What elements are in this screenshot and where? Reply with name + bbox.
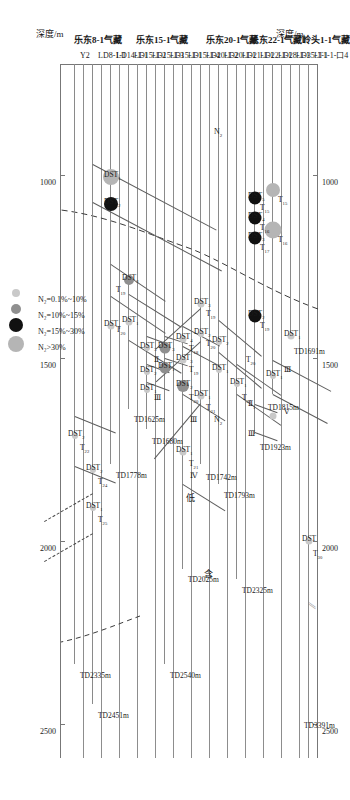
legend-swatch-0 — [12, 289, 20, 297]
legend-swatch-3 — [8, 336, 24, 352]
legend-swatch-2 — [9, 318, 23, 332]
legend-swatch-1 — [11, 304, 21, 314]
legend-label-3: N₂>30% — [38, 344, 66, 352]
legend-label-2: N₂=15%~30% — [38, 328, 85, 336]
legend-label-0: N₂=0.1%~10% — [38, 296, 87, 304]
legend-label-1: N₂=10%~15% — [38, 312, 85, 320]
